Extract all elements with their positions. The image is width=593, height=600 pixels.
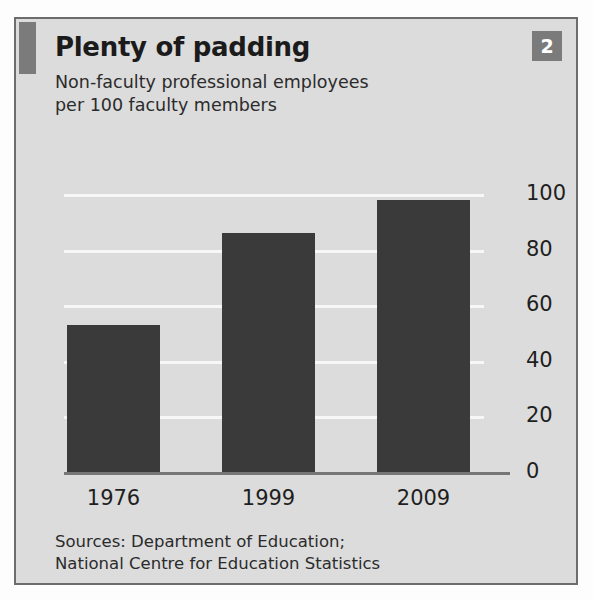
xtick-label-1999: 1999 <box>222 486 315 510</box>
ytick-label-60: 60 <box>526 292 553 316</box>
tick-100 <box>474 194 484 197</box>
ytick-label-0: 0 <box>526 459 539 483</box>
tick-20 <box>474 416 484 419</box>
source-note: Sources: Department of Education; Nation… <box>55 531 380 575</box>
gridline-100 <box>64 194 474 197</box>
figure-canvas: 2 Plenty of padding Non-faculty professi… <box>0 0 593 600</box>
ytick-label-100: 100 <box>526 181 566 205</box>
xtick-label-1976: 1976 <box>67 486 160 510</box>
chart-subtitle: Non-faculty professional employees per 1… <box>55 71 369 117</box>
tick-40 <box>474 361 484 364</box>
chart-panel: 2 Plenty of padding Non-faculty professi… <box>14 17 578 585</box>
ytick-label-20: 20 <box>526 403 553 427</box>
tick-80 <box>474 250 484 253</box>
chart-title: Plenty of padding <box>55 32 310 62</box>
axis-baseline <box>64 472 510 475</box>
bar-1976 <box>67 325 160 472</box>
tick-60 <box>474 305 484 308</box>
corner-tab-marker <box>19 22 36 74</box>
xtick-label-2009: 2009 <box>377 486 470 510</box>
figure-number-badge: 2 <box>532 31 562 61</box>
bar-1999 <box>222 233 315 472</box>
plot-area: 100 80 60 40 20 0 1976 1999 2009 <box>64 194 474 475</box>
ytick-label-40: 40 <box>526 348 553 372</box>
bar-2009 <box>377 200 470 472</box>
ytick-label-80: 80 <box>526 237 553 261</box>
